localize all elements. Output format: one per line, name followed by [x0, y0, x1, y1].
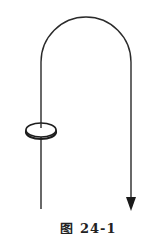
diagram-canvas	[0, 0, 151, 234]
arrow-down-icon	[126, 197, 136, 211]
figure-24-1: 图 24-1	[0, 0, 151, 234]
figure-caption: 图 24-1	[0, 218, 151, 234]
hook-path	[41, 17, 131, 209]
